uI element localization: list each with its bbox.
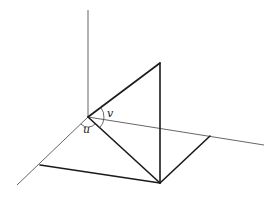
- ground-edge-right: [160, 136, 210, 183]
- spherical-angle-diagram: v u: [0, 0, 278, 200]
- angle-v-label: v: [107, 107, 114, 120]
- edge-origin-apex: [88, 63, 160, 117]
- angle-v-arc: [100, 107, 104, 127]
- ground-edge-left: [40, 165, 160, 183]
- left-axis: [17, 117, 88, 185]
- angle-u-label: u: [83, 123, 90, 136]
